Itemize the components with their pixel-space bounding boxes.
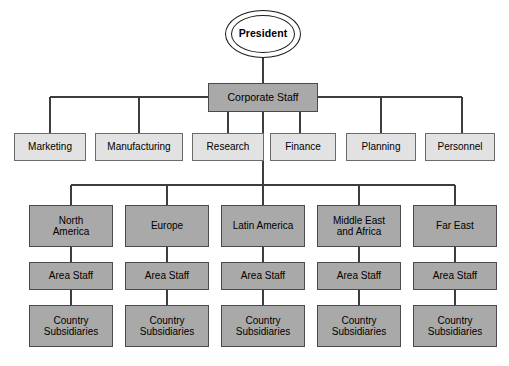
department-label: Marketing [28, 141, 72, 152]
country-subsidiaries-label: Country Subsidiaries [236, 315, 290, 337]
department-node-research[interactable]: Research [192, 133, 264, 161]
corporate-staff-label: Corporate Staff [227, 92, 298, 104]
president-node[interactable]: President [225, 10, 301, 58]
corporate-staff-node[interactable]: Corporate Staff [208, 83, 318, 112]
president-label: President [239, 28, 288, 40]
department-label: Personnel [437, 141, 482, 152]
country-subsidiaries-label: Country Subsidiaries [140, 315, 194, 337]
region-node-middle-east-and-africa[interactable]: Middle East and Africa [317, 205, 401, 247]
region-label: Latin America [233, 220, 294, 231]
department-label: Manufacturing [107, 141, 170, 152]
region-label: North America [53, 215, 90, 237]
region-label: Europe [151, 220, 183, 231]
department-node-personnel[interactable]: Personnel [425, 133, 495, 161]
region-label: Far East [436, 220, 474, 231]
area-staff-node-middle-east-and-africa[interactable]: Area Staff [317, 262, 401, 290]
department-label: Research [207, 141, 250, 152]
org-chart: President Corporate Staff Marketing Manu… [0, 0, 509, 366]
region-node-europe[interactable]: Europe [125, 205, 209, 247]
country-subsidiaries-node-far-east[interactable]: Country Subsidiaries [413, 305, 497, 347]
area-staff-node-latin-america[interactable]: Area Staff [221, 262, 305, 290]
region-node-far-east[interactable]: Far East [413, 205, 497, 247]
country-subsidiaries-label: Country Subsidiaries [332, 315, 386, 337]
area-staff-node-north-america[interactable]: Area Staff [29, 262, 113, 290]
country-subsidiaries-label: Country Subsidiaries [428, 315, 482, 337]
area-staff-label: Area Staff [145, 270, 189, 281]
area-staff-node-europe[interactable]: Area Staff [125, 262, 209, 290]
department-node-finance[interactable]: Finance [270, 133, 336, 161]
country-subsidiaries-label: Country Subsidiaries [44, 315, 98, 337]
area-staff-label: Area Staff [241, 270, 285, 281]
area-staff-label: Area Staff [49, 270, 93, 281]
region-node-north-america[interactable]: North America [29, 205, 113, 247]
department-label: Finance [285, 141, 321, 152]
department-label: Planning [362, 141, 401, 152]
area-staff-label: Area Staff [433, 270, 477, 281]
area-staff-node-far-east[interactable]: Area Staff [413, 262, 497, 290]
region-label: Middle East and Africa [333, 215, 385, 237]
country-subsidiaries-node-europe[interactable]: Country Subsidiaries [125, 305, 209, 347]
country-subsidiaries-node-latin-america[interactable]: Country Subsidiaries [221, 305, 305, 347]
president-inner-ellipse: President [231, 15, 295, 53]
area-staff-label: Area Staff [337, 270, 381, 281]
region-node-latin-america[interactable]: Latin America [221, 205, 305, 247]
department-node-planning[interactable]: Planning [346, 133, 416, 161]
country-subsidiaries-node-middle-east-and-africa[interactable]: Country Subsidiaries [317, 305, 401, 347]
department-node-manufacturing[interactable]: Manufacturing [95, 133, 183, 161]
country-subsidiaries-node-north-america[interactable]: Country Subsidiaries [29, 305, 113, 347]
department-node-marketing[interactable]: Marketing [14, 133, 86, 161]
